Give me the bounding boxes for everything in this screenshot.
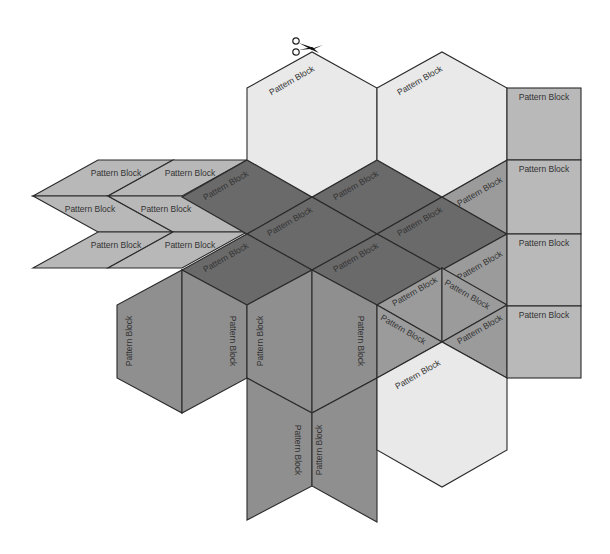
medium-rhombus-tile-label: Pattern Block [314, 424, 324, 475]
medium-rhombus-tile-label: Pattern Block [255, 315, 265, 366]
square-tile-label: Pattern Block [519, 310, 570, 320]
medium-rhombus-tile: Pattern Block [117, 270, 182, 413]
thin-rhombus-tile-label: Pattern Block [165, 240, 216, 250]
medium-rhombus-group: Pattern BlockPattern BlockPattern BlockP… [117, 270, 377, 522]
thin-rhombus-tile-label: Pattern Block [91, 168, 142, 178]
medium-rhombus-tile-label: Pattern Block [293, 425, 303, 476]
thin-rhombus-tile-label: Pattern Block [65, 204, 116, 214]
square-group: Pattern BlockPattern BlockPattern BlockP… [507, 88, 581, 378]
square-tile: Pattern Block [507, 160, 581, 234]
scissors-icon [293, 38, 323, 55]
medium-rhombus-tile-label: Pattern Block [124, 315, 134, 366]
square-tile-label: Pattern Block [519, 92, 570, 102]
thin-rhombus-tile-label: Pattern Block [91, 240, 142, 250]
pattern-block-diagram: Pattern BlockPattern BlockPattern BlockP… [0, 0, 610, 554]
square-tile: Pattern Block [507, 234, 581, 306]
medium-rhombus-tile-label: Pattern Block [356, 316, 366, 367]
square-tile-label: Pattern Block [519, 164, 570, 174]
square-tile-label: Pattern Block [519, 238, 570, 248]
square-tile: Pattern Block [507, 306, 581, 378]
thin-rhombus-tile-label: Pattern Block [165, 168, 216, 178]
square-tile: Pattern Block [507, 88, 581, 160]
medium-rhombus-tile-label: Pattern Block [228, 316, 238, 367]
pattern-block-net: Pattern BlockPattern BlockPattern BlockP… [0, 0, 610, 554]
thin-rhombus-tile-label: Pattern Block [141, 204, 192, 214]
